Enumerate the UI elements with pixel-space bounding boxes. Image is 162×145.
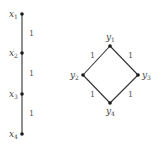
node-x4: [20, 132, 24, 136]
node-label-y2: y2: [69, 70, 79, 81]
node-x1: [20, 12, 24, 16]
edge-y1-y3: [110, 46, 138, 75]
node-label-y3: y3: [141, 70, 151, 81]
node-label-x4: x4: [9, 129, 18, 140]
node-y2: [81, 73, 85, 77]
edge-y1-y2: [83, 46, 110, 75]
diamond-graph: 1 1 1 1 y1 y2 y3 y4: [69, 32, 151, 117]
node-x2: [20, 51, 24, 55]
node-label-x2: x2: [9, 48, 18, 59]
edge-weight-x1-x2: 1: [29, 29, 34, 38]
edge-weight-y1-y2: 1: [90, 51, 95, 60]
edge-weight-y3-y4: 1: [128, 90, 133, 99]
edge-weight-y1-y3: 1: [128, 51, 133, 60]
chain-graph: 1 1 1 x1 x2 x3 x4: [9, 9, 34, 140]
edge-y3-y4: [110, 75, 138, 103]
edge-weight-y2-y4: 1: [90, 90, 95, 99]
node-label-y4: y4: [105, 106, 115, 117]
node-x3: [20, 92, 24, 96]
edge-y2-y4: [83, 75, 110, 103]
node-y3: [136, 73, 140, 77]
node-label-x3: x3: [9, 89, 18, 100]
edge-weight-x3-x4: 1: [29, 109, 34, 118]
node-y4: [108, 101, 112, 105]
node-label-x1: x1: [9, 9, 18, 20]
node-y1: [108, 44, 112, 48]
edge-weight-x2-x3: 1: [29, 69, 34, 78]
graph-diagram: 1 1 1 x1 x2 x3 x4 1 1 1 1 y1 y2 y3 y4: [0, 0, 162, 145]
node-label-y1: y1: [105, 32, 115, 43]
